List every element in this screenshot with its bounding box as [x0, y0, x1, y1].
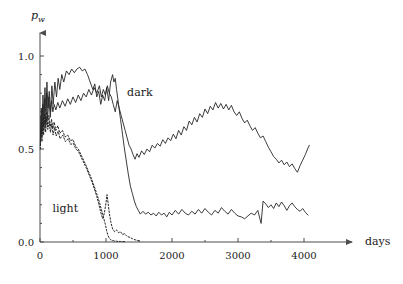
x-axis-tick-label: 1000 — [93, 250, 118, 261]
x-axis-tick-label: 4000 — [291, 250, 316, 261]
y-axis-title-subscript: w — [38, 15, 45, 24]
data-series-group — [40, 67, 309, 241]
y-axis-tick-label: 0.0 — [8, 237, 34, 248]
x-axis-title: days — [365, 235, 390, 248]
series-line-light-2 — [40, 118, 140, 241]
chart-figure: pw days 010002000300040000.00.51.0 darkl… — [0, 0, 403, 284]
series-line-dark-2 — [40, 86, 309, 172]
y-axis-title-base: p — [31, 9, 38, 22]
chart-plot-area — [0, 0, 403, 284]
series-annotation-light: light — [53, 202, 79, 215]
x-axis-tick-label: 0 — [37, 250, 43, 261]
x-axis-tick-label: 3000 — [225, 250, 250, 261]
x-axis-tick-label: 2000 — [159, 250, 184, 261]
x-axis-ticks — [40, 238, 304, 242]
y-axis-tick-label: 1.0 — [8, 51, 34, 62]
series-annotation-dark: dark — [127, 86, 153, 99]
y-axis-title: pw — [31, 9, 45, 24]
y-axis-tick-label: 0.5 — [8, 144, 34, 155]
axes — [40, 33, 352, 242]
